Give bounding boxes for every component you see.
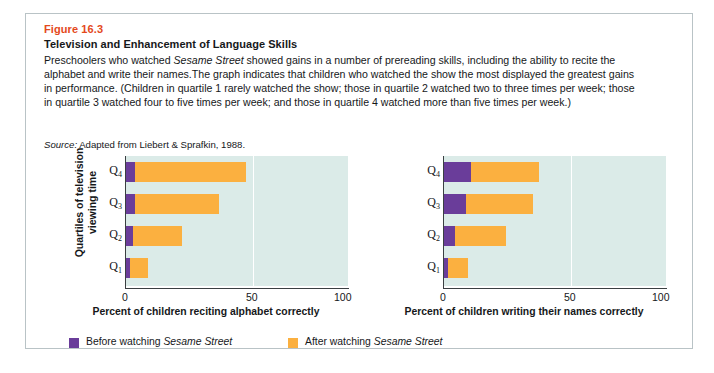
x-tick-right-50: 50 — [564, 291, 576, 303]
bar-segment-before-right-q4 — [444, 162, 471, 182]
legend-swatch-before-icon — [69, 338, 79, 348]
x-tick-right-0: 0 — [440, 291, 446, 303]
bar-segment-after-right-q4 — [471, 162, 540, 182]
caption-text-part-1: Preschoolers who watched — [44, 54, 174, 66]
bar-segment-before-left-q4 — [126, 162, 135, 182]
chart-panel-names: Q4 Q3 Q2 Q1 0 50 100 Percen — [374, 154, 674, 314]
legend-swatch-after-icon — [288, 338, 298, 348]
x-tick-left-0: 0 — [122, 291, 128, 303]
legend-label-after-pre: After watching — [305, 336, 374, 347]
legend-label-after-em: Sesame Street — [374, 336, 443, 347]
bar-segment-before-left-q3 — [126, 194, 135, 214]
y-tick-left-q4: Q4 — [96, 163, 122, 179]
gridline-50-left — [253, 156, 254, 286]
bar-segment-after-left-q3 — [135, 194, 219, 214]
bar-segment-after-left-q2 — [133, 226, 182, 246]
bar-segment-before-right-q2 — [444, 226, 455, 246]
x-axis-title-right: Percent of children writing their names … — [374, 306, 674, 317]
y-axis-label-left-text: Quartiles of television viewing time — [73, 148, 98, 258]
bar-segment-after-left-q1 — [130, 258, 148, 278]
x-axis-title-left: Percent of children reciting alphabet co… — [56, 306, 356, 317]
caption-show-name-1: Sesame Street — [174, 54, 244, 66]
x-tick-right-100: 100 — [652, 291, 670, 303]
y-axis-label-left: Quartiles of television viewing time — [73, 138, 98, 268]
bar-segment-after-right-q2 — [455, 226, 506, 246]
bar-segment-after-left-q4 — [135, 162, 246, 182]
figure-caption-body: Preschoolers who watched Sesame Street s… — [44, 53, 644, 109]
chart-panel-alphabet: Quartiles of television viewing time Q4 … — [56, 154, 356, 314]
x-tick-left-100: 100 — [334, 291, 352, 303]
y-tick-right-q2: Q2 — [414, 227, 440, 243]
y-tick-left-q2: Q2 — [96, 227, 122, 243]
bar-segment-before-right-q3 — [444, 194, 466, 214]
legend-label-before-pre: Before watching — [86, 336, 163, 347]
y-tick-right-q1: Q1 — [414, 259, 440, 275]
x-tick-left-50: 50 — [246, 291, 258, 303]
figure-card: Figure 16.3 Television and Enhancement o… — [25, 13, 693, 349]
bar-segment-after-right-q3 — [466, 194, 533, 214]
y-tick-left-q3: Q3 — [96, 195, 122, 211]
x-axis-line-left — [125, 288, 349, 289]
gridline-50-right — [571, 156, 572, 286]
bar-segment-before-left-q2 — [126, 226, 133, 246]
figure-title: Television and Enhancement of Language S… — [44, 38, 297, 50]
x-axis-line-right — [443, 288, 667, 289]
charts-container: Quartiles of television viewing time Q4 … — [26, 154, 694, 314]
y-tick-left-q1: Q1 — [96, 259, 122, 275]
bar-segment-after-right-q1 — [448, 258, 468, 278]
y-tick-right-q4: Q4 — [414, 163, 440, 179]
figure-number: Figure 16.3 — [44, 23, 103, 35]
y-tick-right-q3: Q3 — [414, 195, 440, 211]
legend-label-before-em: Sesame Street — [163, 336, 232, 347]
source-text: Adapted from Liebert & Sprafkin, 1988. — [77, 139, 245, 150]
legend-label-before: Before watching Sesame Street — [86, 336, 232, 347]
legend-label-after: After watching Sesame Street — [305, 336, 442, 347]
